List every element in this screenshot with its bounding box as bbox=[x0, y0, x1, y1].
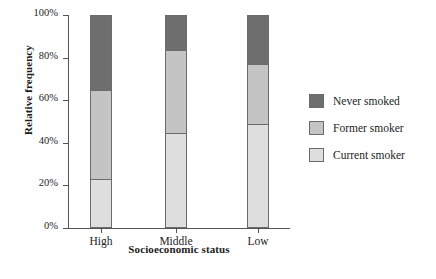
y-tick-label: 40% bbox=[39, 135, 58, 146]
bar-low bbox=[247, 15, 269, 228]
legend-swatch bbox=[309, 148, 324, 162]
y-axis-title: Relative frequency bbox=[22, 15, 34, 165]
bar-segment bbox=[166, 16, 186, 51]
bar-segment bbox=[248, 16, 268, 65]
bar-segment bbox=[91, 91, 111, 179]
legend-item: Never smoked bbox=[309, 87, 433, 114]
y-tick: 60% bbox=[63, 100, 69, 101]
legend-swatch bbox=[309, 121, 324, 135]
bar-segment bbox=[166, 134, 186, 227]
legend-item: Current smoker bbox=[309, 141, 433, 168]
x-tick bbox=[176, 228, 177, 233]
bar-high bbox=[90, 15, 112, 228]
y-tick: 0% bbox=[63, 228, 69, 229]
y-tick-label: 0% bbox=[44, 220, 58, 231]
y-tick: 20% bbox=[63, 185, 69, 186]
y-tick: 80% bbox=[63, 58, 69, 59]
stacked-bar-chart-figure: Relative frequency 0%20%40%60%80%100% Hi… bbox=[0, 0, 436, 279]
x-tick bbox=[101, 228, 102, 233]
plot-area: 0%20%40%60%80%100% HighMiddleLow bbox=[68, 15, 290, 228]
y-tick: 40% bbox=[63, 143, 69, 144]
bar-middle bbox=[165, 15, 187, 228]
y-tick-label: 100% bbox=[34, 7, 59, 18]
bar-segment bbox=[166, 51, 186, 134]
y-tick-label: 20% bbox=[39, 177, 58, 188]
legend-label: Never smoked bbox=[333, 95, 400, 107]
legend-item: Former smoker bbox=[309, 114, 433, 141]
x-tick bbox=[258, 228, 259, 233]
legend-label: Former smoker bbox=[333, 122, 404, 134]
y-tick-label: 80% bbox=[39, 50, 58, 61]
bar-segment bbox=[248, 125, 268, 227]
y-tick: 100% bbox=[63, 15, 69, 16]
x-axis-title: Socioeconomic status bbox=[68, 243, 290, 255]
bar-segment bbox=[91, 16, 111, 91]
y-axis-line bbox=[68, 15, 69, 229]
y-tick-label: 60% bbox=[39, 92, 58, 103]
bar-segment bbox=[248, 65, 268, 125]
legend-swatch bbox=[309, 94, 324, 108]
legend: Never smokedFormer smokerCurrent smoker bbox=[309, 87, 433, 168]
bar-segment bbox=[91, 180, 111, 227]
legend-label: Current smoker bbox=[333, 149, 405, 161]
